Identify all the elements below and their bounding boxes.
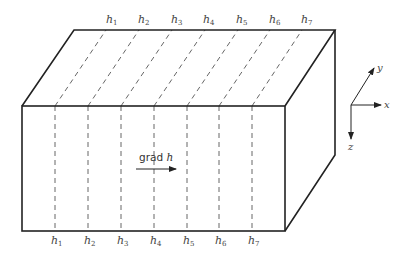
bottom-label-h5: h5 — [183, 234, 195, 248]
y-axis-label: y — [376, 62, 383, 73]
bottom-labels: h1 h2 h3 h4 h5 h6 h7 — [51, 234, 260, 248]
top-label-h5: h5 — [236, 13, 248, 27]
top-label-h1: h1 — [106, 13, 118, 27]
y-axis-arrow-icon — [351, 68, 374, 105]
top-label-h7: h7 — [301, 13, 313, 27]
bottom-label-h3: h3 — [117, 234, 129, 248]
gradient-annotation: grad h — [136, 151, 176, 169]
bottom-label-h7: h7 — [248, 234, 260, 248]
bottom-label-h6: h6 — [215, 234, 227, 248]
gradient-label: grad h — [139, 151, 173, 163]
bottom-label-h4: h4 — [150, 234, 162, 248]
top-face-equipotential-lines — [55, 30, 302, 106]
block-diagram: h1 h2 h3 h4 h5 h6 h7 h1 h2 h3 h4 h5 h6 h… — [0, 0, 405, 255]
x-axis-label: x — [384, 99, 390, 110]
top-label-h6: h6 — [269, 13, 281, 27]
top-labels: h1 h2 h3 h4 h5 h6 h7 — [106, 13, 313, 27]
top-label-h3: h3 — [171, 13, 183, 27]
block-outline — [22, 30, 335, 231]
bottom-label-h2: h2 — [84, 234, 96, 248]
coordinate-axes — [351, 68, 381, 139]
bottom-label-h1: h1 — [51, 234, 63, 248]
z-axis-label: z — [347, 141, 354, 152]
top-label-h4: h4 — [203, 13, 215, 27]
top-label-h2: h2 — [138, 13, 150, 27]
